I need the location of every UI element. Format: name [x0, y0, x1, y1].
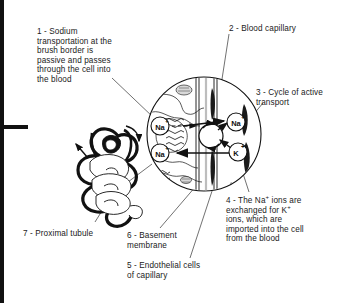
magnified-cell-circle: Na + Na + Na + K + — [147, 77, 261, 204]
proximal-tubule-drawing — [76, 126, 142, 226]
label-1-sodium-transportation: 1 - Sodium transportation at the brush b… — [37, 27, 137, 85]
tubule-flow-arrow-left — [76, 144, 88, 158]
svg-text:Na: Na — [231, 119, 241, 128]
label-4-line-1b: ions are — [269, 196, 301, 205]
label-4-line-3: ions, which are — [226, 215, 282, 224]
ion-na-left-upper: Na + — [151, 117, 169, 135]
tubule-loop-c — [96, 192, 130, 215]
ion-k-right: K + — [229, 143, 247, 161]
svg-text:+: + — [241, 143, 245, 150]
label-3-cycle-of-active-transport: 3 - Cycle of active transport — [256, 88, 348, 107]
tubule-tail — [129, 205, 142, 218]
svg-text:+: + — [165, 145, 169, 151]
leader-line-6 — [160, 186, 196, 228]
label-4-line-4: imported into the cell — [226, 225, 304, 234]
tubule-capsule-inner-light — [106, 140, 116, 150]
label-6-basement-membrane: 6 - Basement membrane — [127, 231, 227, 250]
label-5-endothelial-cells: 5 - Endothelial cells of capillary — [127, 261, 242, 280]
ion-na-right: Na + — [227, 113, 245, 131]
label-4-line-1a: 4 - The Na — [226, 196, 266, 205]
ion-na-left-lower: Na + — [151, 144, 169, 162]
svg-text:+: + — [165, 118, 169, 124]
svg-text:Na: Na — [155, 123, 165, 132]
label-4-line-2: exchanged for K — [226, 206, 287, 215]
label-4-line-5: from the blood — [226, 234, 280, 243]
label-4-na-k-exchange: 4 - The Na+ ions areexchanged for K+ions… — [226, 196, 346, 244]
svg-text:+: + — [241, 114, 245, 120]
label-7-proximal-tubule: 7 - Proximal tubule — [23, 229, 138, 239]
svg-text:Na: Na — [155, 150, 165, 159]
diagram-page: Na + Na + Na + K + — [0, 0, 349, 303]
label-2-blood-capillary: 2 - Blood capillary — [229, 24, 344, 34]
label-4-sup-k: + — [287, 204, 291, 210]
svg-text:K: K — [233, 149, 239, 158]
